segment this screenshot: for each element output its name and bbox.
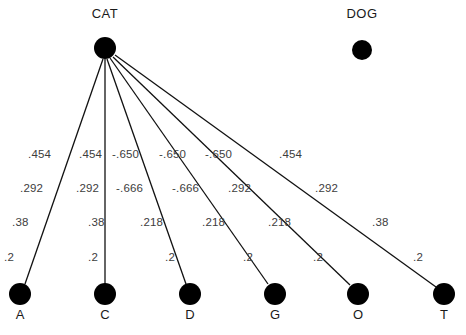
edge-layer: [0, 0, 466, 335]
edge-weight-label-row3-1: .38: [12, 216, 29, 228]
node-a[interactable]: [9, 283, 31, 305]
edge-weight-label-row1-6: .454: [279, 148, 302, 160]
edge-weight-label-row3-5: .218: [268, 216, 291, 228]
edge-weight-label-row4-5: .2: [313, 251, 323, 263]
node-caption-a: A: [16, 307, 25, 322]
edge-weight-label-row2-6: .292: [315, 182, 338, 194]
edge-weight-label-row2-2: .292: [76, 182, 99, 194]
edge-weight-label-row1-5: -.650: [205, 148, 232, 160]
edge-weight-label-row3-2: .38: [88, 216, 105, 228]
node-d[interactable]: [179, 283, 201, 305]
node-c[interactable]: [94, 283, 116, 305]
edge-weight-label-row4-1: .2: [4, 251, 14, 263]
node-caption-c: C: [100, 307, 109, 322]
edge-weight-label-row4-6: .2: [413, 251, 423, 263]
node-g[interactable]: [264, 283, 286, 305]
edge-weight-label-row3-6: .38: [372, 216, 389, 228]
edge-weight-label-row3-4: .218: [202, 216, 225, 228]
edge-weight-label-row1-3: -.650: [112, 148, 139, 160]
edge-weight-label-row1-1: .454: [28, 148, 51, 160]
node-caption-g: G: [270, 307, 280, 322]
edge-weight-label-row4-3: .2: [165, 251, 175, 263]
node-caption-o: O: [353, 307, 363, 322]
node-o[interactable]: [347, 283, 369, 305]
node-title-cat: CAT: [92, 6, 119, 21]
node-caption-d: D: [185, 307, 194, 322]
edge-weight-label-row2-1: .292: [20, 182, 43, 194]
edge-weight-label-row1-2: .454: [79, 148, 102, 160]
edge-weight-label-row2-5: .292: [228, 182, 251, 194]
edge-weight-label-row3-3: .218: [140, 216, 163, 228]
edge-weight-label-row2-4: -.666: [172, 182, 199, 194]
edge-weight-label-row2-3: -.666: [116, 182, 143, 194]
edge-cat-t: [115, 55, 436, 287]
edge-weight-label-row4-2: .2: [88, 251, 98, 263]
node-title-dog: DOG: [346, 6, 377, 21]
node-t[interactable]: [433, 283, 455, 305]
edge-weight-label-row4-4: .2: [243, 251, 253, 263]
edge-weight-label-row1-4: -.650: [159, 148, 186, 160]
graph-diagram: CATDOG ACDGOT .454.454-.650-.650-.650.45…: [0, 0, 466, 335]
node-dog[interactable]: [352, 40, 372, 60]
node-cat[interactable]: [94, 37, 116, 59]
node-caption-t: T: [440, 307, 448, 322]
